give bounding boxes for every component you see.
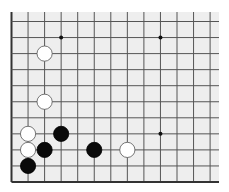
white-stone [37,46,52,61]
white-stone [120,142,135,157]
white-stone [37,94,52,109]
black-stone [20,158,35,173]
star-point [158,132,162,136]
black-stone [37,142,52,157]
star-point [158,36,162,40]
star-point [59,36,63,40]
go-board [0,0,229,192]
black-stone [87,142,102,157]
white-stone [20,126,35,141]
white-stone [20,142,35,157]
black-stone [54,126,69,141]
